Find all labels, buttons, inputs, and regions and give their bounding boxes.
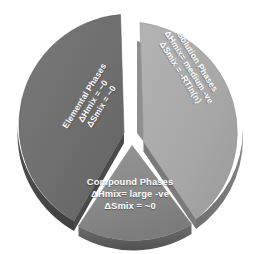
pie-chart-stage bbox=[0, 0, 258, 254]
pie-slice-compound-top bbox=[79, 146, 192, 241]
pie-chart-figure: Elemental Phases ΔHmix = ~0 ΔSmix = ~0 S… bbox=[0, 0, 258, 254]
pie-slice-compound-phases[interactable] bbox=[0, 0, 258, 254]
